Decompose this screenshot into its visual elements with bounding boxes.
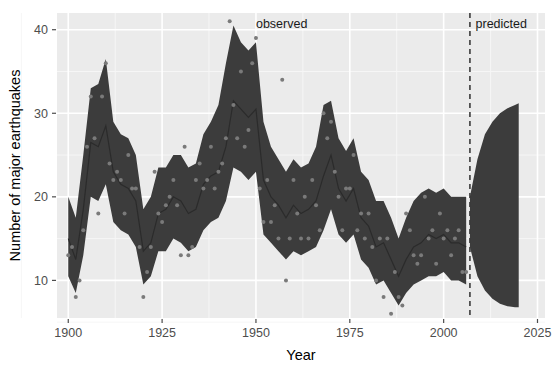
y-axis-tick-label: 30 (34, 107, 48, 121)
observed-data-point (404, 212, 408, 216)
x-axis-tick-label: 2000 (430, 326, 458, 340)
observed-data-point (246, 128, 250, 132)
observed-data-point (314, 203, 318, 207)
observed-data-point (340, 228, 344, 232)
chart-canvas: observedpredicted19001925195019752000202… (0, 0, 558, 377)
observed-data-point (100, 95, 104, 99)
observed-data-point (138, 245, 142, 249)
observed-data-point (423, 195, 427, 199)
observed-data-point (276, 237, 280, 241)
observed-data-point (119, 178, 123, 182)
observed-data-point (322, 111, 326, 115)
observed-data-point (141, 295, 145, 299)
observed-data-point (464, 270, 468, 274)
observed-data-point (228, 19, 232, 23)
observed-data-point (378, 237, 382, 241)
observed-data-point (175, 203, 179, 207)
observed-data-point (303, 195, 307, 199)
x-axis-tick-label: 1950 (242, 326, 270, 340)
observed-data-point (220, 161, 224, 165)
observed-data-point (460, 270, 464, 274)
predicted-label: predicted (476, 17, 527, 31)
observed-data-point (307, 237, 311, 241)
observed-data-point (231, 103, 235, 107)
observed-data-point (363, 237, 367, 241)
observed-data-point (310, 178, 314, 182)
observed-data-point (66, 253, 70, 257)
observed-data-point (160, 220, 164, 224)
observed-data-point (389, 312, 393, 316)
observed-data-point (348, 186, 352, 190)
observed-data-point (408, 228, 412, 232)
observed-data-point (70, 245, 74, 249)
observed-data-point (453, 237, 457, 241)
observed-data-point (194, 178, 198, 182)
observed-data-point (85, 145, 89, 149)
observed-data-point (430, 228, 434, 232)
y-axis-tick-label: 20 (34, 190, 48, 204)
observed-data-point (171, 178, 175, 182)
observed-data-point (115, 170, 119, 174)
observed-data-point (280, 78, 284, 82)
observed-data-point (352, 153, 356, 157)
observed-data-point (243, 145, 247, 149)
observed-data-point (250, 61, 254, 65)
observed-data-point (213, 186, 217, 190)
observed-data-point (288, 237, 292, 241)
observed-data-point (273, 203, 277, 207)
observed-data-point (254, 36, 258, 40)
observed-data-point (81, 228, 85, 232)
observed-data-point (205, 178, 209, 182)
observed-data-point (438, 212, 442, 216)
observed-data-point (333, 170, 337, 174)
observed-data-point (367, 212, 371, 216)
x-axis-title: Year (286, 347, 315, 363)
x-axis-tick-label: 1900 (54, 326, 82, 340)
observed-data-point (295, 212, 299, 216)
observed-data-point (216, 170, 220, 174)
observed-data-point (96, 212, 100, 216)
observed-data-point (126, 153, 130, 157)
observed-label: observed (256, 17, 307, 31)
y-axis-tick-label: 40 (34, 23, 48, 37)
observed-data-point (329, 120, 333, 124)
observed-data-point (89, 95, 93, 99)
observed-data-point (179, 253, 183, 257)
observed-data-point (412, 253, 416, 257)
observed-data-point (442, 237, 446, 241)
observed-data-point (299, 237, 303, 241)
observed-data-point (397, 295, 401, 299)
observed-data-point (318, 228, 322, 232)
observed-data-point (93, 136, 97, 140)
observed-data-point (337, 195, 341, 199)
observed-data-point (427, 237, 431, 241)
observed-data-point (374, 278, 378, 282)
observed-data-point (108, 161, 112, 165)
earthquake-forecast-chart: observedpredicted19001925195019752000202… (0, 0, 558, 377)
observed-data-point (224, 136, 228, 140)
observed-data-point (134, 186, 138, 190)
observed-data-point (130, 186, 134, 190)
observed-data-point (449, 253, 453, 257)
x-axis-tick-label: 1975 (336, 326, 364, 340)
observed-data-point (145, 270, 149, 274)
observed-data-point (183, 145, 187, 149)
observed-data-point (111, 178, 115, 182)
observed-data-point (78, 278, 82, 282)
observed-data-point (261, 220, 265, 224)
observed-data-point (385, 237, 389, 241)
observed-data-point (168, 195, 172, 199)
x-axis-tick-label: 1925 (148, 326, 176, 340)
observed-data-point (156, 212, 160, 216)
observed-data-point (209, 145, 213, 149)
observed-data-point (325, 136, 329, 140)
observed-data-point (359, 212, 363, 216)
observed-data-point (265, 178, 269, 182)
observed-data-point (190, 245, 194, 249)
observed-data-point (457, 228, 461, 232)
x-axis-tick-label: 2025 (524, 326, 552, 340)
observed-data-point (344, 186, 348, 190)
observed-data-point (400, 303, 404, 307)
observed-data-point (382, 295, 386, 299)
observed-data-point (153, 170, 157, 174)
